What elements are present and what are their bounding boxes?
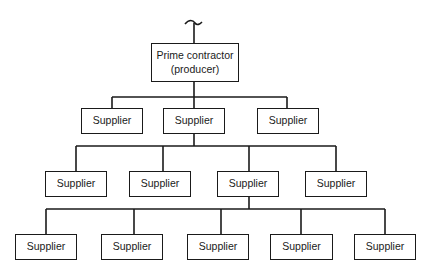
node-label-line2: (producer) bbox=[171, 63, 219, 77]
node-supplier-l2-1: Supplier bbox=[45, 171, 107, 197]
node-supplier-l3-4: Supplier bbox=[270, 234, 333, 260]
node-supplier-l1-1: Supplier bbox=[81, 108, 143, 134]
node-label: Supplier bbox=[141, 177, 180, 191]
node-supplier-l1-2: Supplier bbox=[163, 108, 225, 134]
node-label: Supplier bbox=[229, 177, 268, 191]
node-supplier-l3-5: Supplier bbox=[354, 234, 416, 260]
node-label: Supplier bbox=[93, 114, 132, 128]
node-supplier-l2-4: Supplier bbox=[305, 171, 367, 197]
node-label: Supplier bbox=[269, 114, 308, 128]
node-supplier-l1-3: Supplier bbox=[257, 108, 319, 134]
node-supplier-l2-2: Supplier bbox=[129, 171, 191, 197]
node-supplier-l3-3: Supplier bbox=[187, 234, 249, 260]
node-supplier-l3-1: Supplier bbox=[15, 234, 77, 260]
connector-lines bbox=[0, 0, 430, 273]
node-label: Supplier bbox=[366, 240, 405, 254]
node-prime-contractor: Prime contractor (producer) bbox=[151, 43, 239, 82]
node-label: Supplier bbox=[317, 177, 356, 191]
node-label-line1: Prime contractor bbox=[156, 49, 233, 63]
node-supplier-l2-3: Supplier bbox=[217, 171, 279, 197]
node-supplier-l3-2: Supplier bbox=[101, 234, 163, 260]
node-label: Supplier bbox=[282, 240, 321, 254]
node-label: Supplier bbox=[175, 114, 214, 128]
node-label: Supplier bbox=[57, 177, 96, 191]
node-label: Supplier bbox=[113, 240, 152, 254]
node-label: Supplier bbox=[199, 240, 238, 254]
node-label: Supplier bbox=[27, 240, 66, 254]
